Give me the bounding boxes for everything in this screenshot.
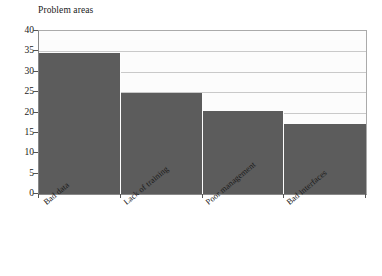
y-axis-tick-mark [33, 112, 38, 113]
y-axis-tick-label: 35 [14, 45, 34, 55]
y-axis-tick-label: 5 [14, 168, 34, 178]
y-axis-tick-label: 0 [14, 188, 34, 198]
y-axis-tick-label: 20 [14, 107, 34, 117]
y-axis-tick-mark [33, 50, 38, 51]
y-axis-tick-label: 10 [14, 147, 34, 157]
y-axis-tick-mark [33, 30, 38, 31]
y-axis-tick-label: 25 [14, 86, 34, 96]
y-axis-tick-mark [33, 173, 38, 174]
y-axis-tick-label: 40 [14, 25, 34, 35]
bar[interactable] [284, 124, 366, 194]
x-axis-tick-mark [365, 194, 366, 198]
y-axis-tick-label: 15 [14, 127, 34, 137]
y-axis-tick-label: 30 [14, 66, 34, 76]
x-axis-tick-mark [38, 194, 39, 198]
plot-area [38, 30, 367, 195]
bar[interactable] [39, 53, 121, 194]
chart-title: Problem areas [38, 5, 93, 15]
y-axis-tick-mark [33, 132, 38, 133]
x-axis-tick-mark [202, 194, 203, 198]
bars-layer [39, 31, 366, 194]
y-axis-tick-mark [33, 152, 38, 153]
bar-chart: Problem areas 0510152025303540 Bad dataL… [0, 0, 382, 276]
bar[interactable] [121, 93, 203, 194]
y-axis-tick-mark [33, 91, 38, 92]
x-axis-tick-mark [283, 194, 284, 198]
x-axis-tick-mark [120, 194, 121, 198]
y-axis-tick-mark [33, 71, 38, 72]
bar[interactable] [203, 111, 285, 194]
